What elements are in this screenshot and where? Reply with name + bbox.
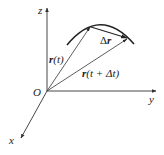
delta-symbol: Δ bbox=[100, 34, 107, 46]
r-t-dt-label: r(t + Δt) bbox=[82, 67, 119, 80]
z-axis-label: z bbox=[37, 4, 43, 16]
y-axis-label: y bbox=[148, 93, 154, 105]
r-t-dt-rest: (t + Δt) bbox=[86, 67, 119, 80]
r-t-label: r(t) bbox=[49, 53, 64, 66]
origin-label: O bbox=[33, 86, 41, 98]
x-axis bbox=[21, 91, 47, 138]
vector-r-t-dt bbox=[47, 39, 127, 91]
x-axis-label: x bbox=[8, 134, 14, 146]
delta-r-label: Δr bbox=[100, 34, 112, 46]
r-t-rest: (t) bbox=[53, 53, 64, 66]
delta-r-bold: r bbox=[107, 34, 112, 46]
position-vector-diagram: z y x O r(t) r(t + Δt) Δr bbox=[0, 0, 164, 155]
